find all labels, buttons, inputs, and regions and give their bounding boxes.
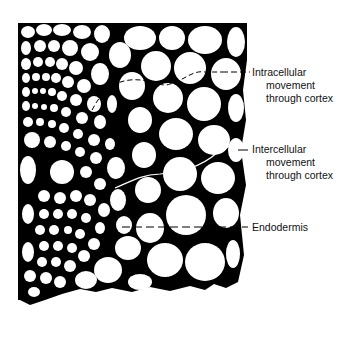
intercellular-label: Intercellular movement through cortex <box>252 143 333 182</box>
intracellular-label-line2: movement <box>252 79 333 92</box>
endodermis-label-text: Endodermis <box>252 221 308 233</box>
intercellular-label-line2: movement <box>252 156 333 169</box>
endodermis-label: Endodermis <box>252 221 308 234</box>
intercellular-label-line3: through cortex <box>252 169 333 182</box>
intracellular-label-line3: through cortex <box>252 92 333 105</box>
intracellular-label: Intracellular movement through cortex <box>252 66 333 105</box>
intercellular-label-line1: Intercellular <box>252 143 306 155</box>
intracellular-label-line1: Intracellular <box>252 66 306 78</box>
